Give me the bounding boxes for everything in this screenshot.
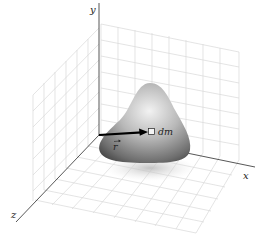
mass-element-label: dm [158,126,173,137]
rigid-body-diagram: y x z dm r [0,0,273,242]
z-axis-label: z [10,209,17,220]
y-axis-label: y [89,4,96,15]
yz-plane-grid [33,28,99,201]
x-axis-label: x [243,170,249,181]
mass-element [149,129,155,135]
z-axis [16,135,99,222]
